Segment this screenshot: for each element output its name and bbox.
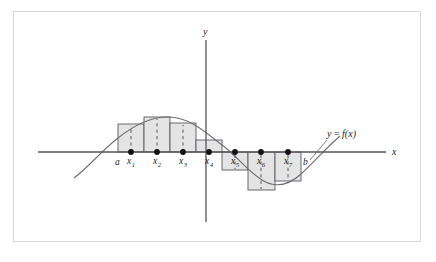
riemann-rect-2 xyxy=(144,117,170,152)
curve-equation-label: y = f(x) xyxy=(327,128,356,139)
sample-dot-4 xyxy=(206,149,212,155)
sample-dot-5 xyxy=(232,149,238,155)
tick-label-x3-sub: 3 xyxy=(184,161,187,168)
sample-dot-3 xyxy=(180,149,186,155)
y-axis-label: y xyxy=(203,26,207,37)
tick-label-x6-base: x xyxy=(257,156,261,166)
tick-label-x2-base: x xyxy=(153,156,157,166)
sample-dot-7 xyxy=(285,149,291,155)
tick-label-x3: x3 xyxy=(179,156,187,166)
tick-label-x5-base: x xyxy=(231,156,235,166)
tick-label-x1: x1 xyxy=(127,156,135,166)
curve-label-fx: f(x) xyxy=(342,128,356,139)
tick-label-x5: x5 xyxy=(231,156,239,166)
tick-label-x1-base: x xyxy=(127,156,131,166)
tick-label-x7-sub: 7 xyxy=(289,161,292,168)
tick-label-x6: x6 xyxy=(257,156,265,166)
tick-label-x7-base: x xyxy=(284,156,288,166)
tick-label-x3-base: x xyxy=(179,156,183,166)
tick-label-x2-sub: 2 xyxy=(158,161,161,168)
tick-label-x4-sub: 4 xyxy=(210,161,213,168)
sample-dot-6 xyxy=(258,149,264,155)
sample-dot-1 xyxy=(128,149,134,155)
tick-label-x2: x2 xyxy=(153,156,161,166)
tick-label-x5-sub: 5 xyxy=(236,161,239,168)
x-axis-label: x xyxy=(392,146,396,157)
left-endpoint-label-a: a xyxy=(115,157,120,167)
curve-label-y: y xyxy=(327,128,331,139)
tick-label-x7: x7 xyxy=(284,156,292,166)
plot-svg xyxy=(0,0,436,262)
sample-dot-2 xyxy=(154,149,160,155)
tick-label-x4: x4 xyxy=(205,156,213,166)
figure-root: y x a b x1 x2 x3 x4 x5 x6 x7 y = f(x) xyxy=(0,0,436,262)
tick-label-x1-sub: 1 xyxy=(132,161,135,168)
curve-label-equals: = xyxy=(334,128,340,139)
right-endpoint-label-b: b xyxy=(303,157,308,167)
tick-label-x6-sub: 6 xyxy=(262,161,265,168)
tick-label-x4-base: x xyxy=(205,156,209,166)
